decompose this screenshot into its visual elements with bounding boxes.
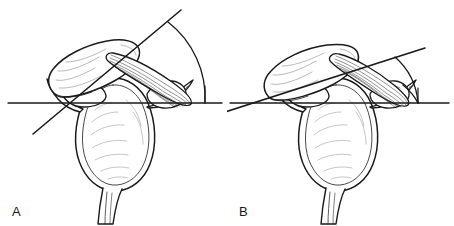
panel-a: A <box>0 0 227 226</box>
panel-b-illustration <box>227 0 454 226</box>
panel-a-illustration <box>0 0 227 226</box>
panel-a-label: A <box>12 205 21 218</box>
panel-b: B <box>227 0 454 226</box>
figure-root: A <box>0 0 454 226</box>
panel-b-label: B <box>239 205 248 218</box>
